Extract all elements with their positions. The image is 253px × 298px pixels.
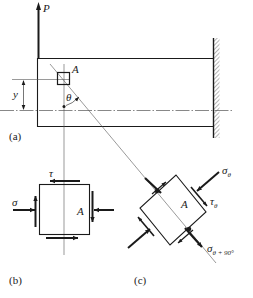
normal-stress-theta-arrow-ll	[128, 229, 150, 248]
element-a	[58, 73, 70, 85]
panel-b: σ τ A (b)	[9, 167, 114, 287]
load-arrow-icon	[36, 2, 41, 10]
load-label: P	[42, 2, 50, 14]
normal-stress-90-arrow-lr	[185, 228, 202, 247]
beam-stress-diagram: P y A θ (a) σ τ A	[0, 0, 253, 298]
angle-label: θ	[66, 91, 72, 103]
normal-stress-theta-label: σθ	[222, 164, 231, 179]
normal-stress-90-label: σθ + 90°	[207, 242, 234, 257]
dimension-label: y	[12, 88, 18, 100]
projection-line-diagonal	[50, 64, 216, 263]
stress-element-c	[140, 175, 206, 245]
pivot-dot	[63, 105, 66, 108]
dimension-arrow-up-icon	[22, 80, 26, 85]
element-c-label: A	[180, 198, 188, 210]
shear-theta-arrow-lr	[178, 230, 193, 243]
fixed-support-hatch	[214, 38, 220, 138]
element-a-label: A	[71, 63, 79, 75]
normal-stress-label: σ	[12, 196, 18, 208]
shear-stress-label: τ	[49, 167, 54, 179]
element-b-label: A	[76, 205, 84, 217]
normal-stress-theta-arrow-ur	[197, 172, 219, 191]
panel-c: σθ σθ + 90° τθ A (c)	[128, 164, 234, 287]
panel-c-caption: (c)	[134, 274, 147, 287]
face-midpoint-lr	[187, 227, 192, 232]
dimension-arrow-down-icon	[22, 105, 26, 110]
shear-stress-theta-label: τθ	[210, 195, 218, 210]
panel-a-caption: (a)	[9, 130, 22, 143]
panel-b-caption: (b)	[9, 274, 22, 287]
